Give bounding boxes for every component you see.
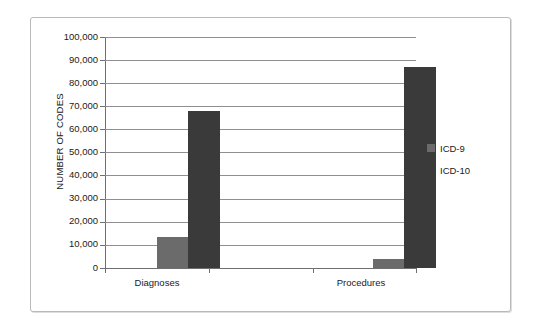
x-axis-tick [105, 268, 106, 273]
bar-procedures-icd9 [373, 259, 404, 268]
gridline [105, 175, 416, 176]
x-axis-label-procedures: Procedures [311, 277, 411, 288]
x-axis-label-diagnoses: Diagnoses [107, 277, 207, 288]
gridline [105, 60, 416, 61]
x-axis-tick [313, 268, 314, 273]
legend-swatch-icon [427, 144, 435, 152]
y-tick-label: 90,000 [38, 55, 98, 65]
y-tick-label: 70,000 [38, 101, 98, 111]
y-tick-label: 100,000 [38, 32, 98, 42]
plot-area [105, 37, 416, 268]
y-tick-label: 10,000 [38, 239, 98, 249]
legend-item-icd9: ICD-9 [427, 137, 505, 159]
gridline [105, 37, 416, 38]
y-tick-label: 20,000 [38, 216, 98, 226]
bar-diagnoses-icd10 [188, 111, 220, 268]
legend: ICD-9 ICD-10 [427, 137, 505, 181]
y-tick-label: 30,000 [38, 193, 98, 203]
x-axis-tick [416, 268, 417, 273]
x-axis-line [105, 268, 417, 269]
legend-label: ICD-10 [440, 165, 470, 176]
y-tick-label: 0 [38, 263, 98, 273]
y-tick-label: 50,000 [38, 147, 98, 157]
legend-swatch-icon [427, 166, 435, 174]
gridline [105, 152, 416, 153]
bar-diagnoses-icd9 [157, 237, 188, 268]
gridline [105, 83, 416, 84]
chart-frame: NUMBER OF CODES 100,000 90,000 80,000 70… [30, 17, 511, 312]
y-tick-label: 80,000 [38, 78, 98, 88]
gridline [105, 199, 416, 200]
gridline [105, 129, 416, 130]
gridline [105, 245, 416, 246]
gridline [105, 222, 416, 223]
legend-item-icd10: ICD-10 [427, 159, 505, 181]
legend-label: ICD-9 [440, 143, 465, 154]
gridline [105, 106, 416, 107]
y-axis-tick-labels: 100,000 90,000 80,000 70,000 60,000 50,0… [34, 18, 98, 313]
y-tick-label: 40,000 [38, 170, 98, 180]
x-axis-tick [209, 268, 210, 273]
y-tick-label: 60,000 [38, 124, 98, 134]
